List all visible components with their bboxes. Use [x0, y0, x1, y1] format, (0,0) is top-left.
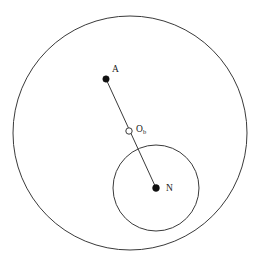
point-ob-label-subscript: b — [143, 128, 146, 135]
point-n-marker — [153, 185, 160, 192]
point-a-label: A — [112, 65, 119, 75]
point-ob-marker — [126, 128, 132, 134]
point-ob-label: Ob — [136, 125, 146, 135]
point-n-label: N — [166, 184, 173, 194]
point-a-marker — [103, 76, 109, 82]
geometry-figure: A Ob N — [0, 0, 265, 265]
geometry-canvas — [0, 0, 265, 265]
point-ob-label-base: O — [136, 124, 143, 134]
